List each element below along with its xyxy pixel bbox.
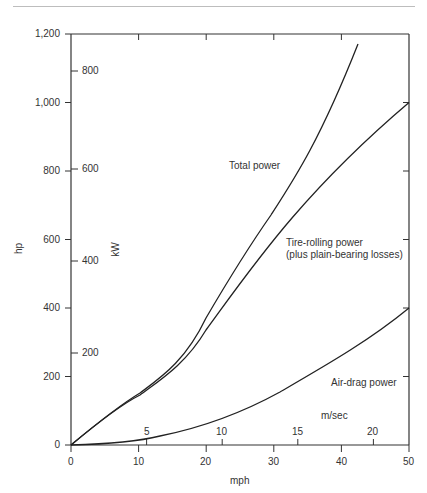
- x-tick-label: 0: [68, 456, 74, 467]
- kw-ticks: [71, 71, 78, 353]
- ms-axis-label: m/sec: [321, 410, 348, 421]
- y-tick-label: 600: [20, 234, 60, 245]
- ms-tick-label: 15: [292, 426, 303, 437]
- ms-ticks: [147, 439, 374, 445]
- kw-tick-label: 400: [82, 255, 99, 266]
- x-axis-label-mph: mph: [230, 475, 249, 486]
- tire-rolling-label-line1: Tire-rolling power: [286, 237, 363, 248]
- x-tick-label: 20: [200, 456, 211, 467]
- kw-tick-label: 200: [82, 347, 99, 358]
- kw-tick-label: 800: [82, 65, 99, 76]
- ms-tick-label: 10: [216, 426, 227, 437]
- y-tick-label: 1,000: [20, 97, 60, 108]
- tire-rolling-label-line2: (plus plain-bearing losses): [286, 249, 403, 260]
- y-tick-label: 200: [20, 371, 60, 382]
- y-tick-label: 400: [20, 302, 60, 313]
- x-tick-label: 50: [403, 456, 414, 467]
- air-drag-label: Air-drag power: [331, 377, 397, 388]
- kw-tick-label: 600: [82, 163, 99, 174]
- y-axis-label-kw: kW: [110, 242, 121, 256]
- ms-tick-label: 5: [144, 426, 150, 437]
- y-tick-label: 0: [20, 439, 60, 450]
- y-tick-label: 1,200: [20, 28, 60, 39]
- ms-tick-label: 20: [367, 426, 378, 437]
- x-tick-label: 40: [336, 456, 347, 467]
- x-tick-label: 10: [133, 456, 144, 467]
- y-tick-label: 800: [20, 165, 60, 176]
- x-tick-label: 30: [268, 456, 279, 467]
- tire-rolling-power-curve: [71, 103, 409, 446]
- y-axis-label-hp: hp: [13, 243, 24, 254]
- total-power-label: Total power: [229, 160, 280, 171]
